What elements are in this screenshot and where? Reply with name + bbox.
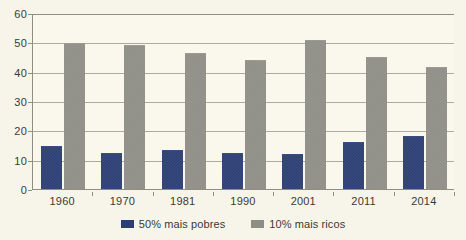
x-axis: 1960197019811990200120112014 xyxy=(32,192,454,212)
legend-item-rich: 10% mais ricos xyxy=(251,218,345,230)
x-axis-tick-label: 1970 xyxy=(92,195,152,207)
y-axis: 0102030405060 xyxy=(0,14,466,190)
chart-legend: 50% mais pobres 10% mais ricos xyxy=(0,218,466,230)
y-axis-tick-mark xyxy=(28,73,32,74)
y-axis-tick-label: 0 xyxy=(0,184,27,196)
legend-label-rich: 10% mais ricos xyxy=(269,218,345,230)
y-axis-tick-label: 10 xyxy=(0,155,27,167)
legend-item-poor: 50% mais pobres xyxy=(121,218,226,230)
bar-chart: 0102030405060 19601970198119902001201120… xyxy=(0,0,466,240)
y-axis-tick-label: 40 xyxy=(0,67,27,79)
y-axis-tick-label: 50 xyxy=(0,37,27,49)
y-axis-tick-mark xyxy=(28,14,32,15)
y-axis-tick-mark xyxy=(28,190,32,191)
x-axis-tick-label: 1990 xyxy=(213,195,273,207)
y-axis-tick-mark xyxy=(28,102,32,103)
legend-label-poor: 50% mais pobres xyxy=(139,218,226,230)
x-axis-tick-label: 1981 xyxy=(153,195,213,207)
x-axis-tick-label: 1960 xyxy=(32,195,92,207)
y-axis-tick-label: 20 xyxy=(0,125,27,137)
x-axis-tick-label: 2011 xyxy=(333,195,393,207)
legend-swatch-poor-icon xyxy=(121,220,134,228)
x-axis-tick-label: 2001 xyxy=(273,195,333,207)
y-axis-tick-label: 60 xyxy=(0,8,27,20)
y-axis-tick-mark xyxy=(28,131,32,132)
x-axis-tick-mark xyxy=(454,192,455,196)
x-axis-tick-label: 2014 xyxy=(394,195,454,207)
legend-swatch-rich-icon xyxy=(251,220,264,228)
y-axis-tick-label: 30 xyxy=(0,96,27,108)
y-axis-tick-mark xyxy=(28,43,32,44)
y-axis-tick-mark xyxy=(28,161,32,162)
